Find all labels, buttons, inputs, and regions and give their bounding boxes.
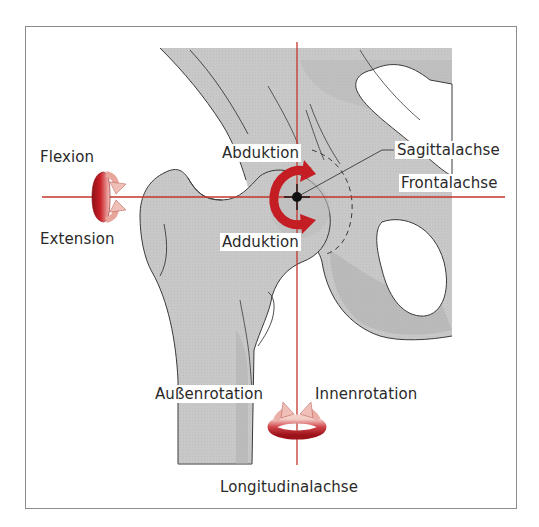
hip-joint-illustration [0, 0, 539, 527]
label-sagittal-axis: Sagittalachse [395, 141, 502, 159]
label-frontal-axis: Frontalachse [399, 174, 500, 192]
label-external-rotation: Außenrotation [153, 385, 265, 403]
label-internal-rotation: Innenrotation [315, 385, 417, 403]
label-extension: Extension [40, 230, 115, 248]
label-abduction: Abduktion [220, 144, 301, 162]
label-longitudinal-axis: Longitudinalachse [220, 478, 358, 496]
label-adduction: Adduktion [220, 233, 301, 251]
joint-center-dot [292, 192, 302, 202]
label-flexion: Flexion [40, 148, 94, 166]
